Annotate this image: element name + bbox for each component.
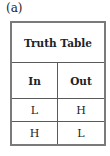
header-in: In: [12, 63, 58, 98]
cell-out: H: [58, 99, 104, 121]
truth-table: Truth Table In Out L H H L: [10, 21, 106, 146]
cell-out: L: [58, 122, 104, 144]
cell-in: L: [12, 99, 58, 121]
figure-label: (a): [6, 1, 23, 15]
table-row: L H: [12, 99, 104, 122]
header-out: Out: [58, 63, 104, 98]
table-title: Truth Table: [12, 23, 104, 63]
table-row: H L: [12, 122, 104, 144]
cell-in: H: [12, 122, 58, 144]
table-header-row: In Out: [12, 63, 104, 99]
